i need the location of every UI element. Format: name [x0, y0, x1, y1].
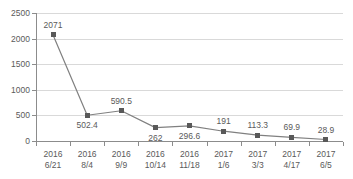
data-point-marker — [323, 137, 328, 142]
data-point-label: 296.6 — [168, 132, 212, 141]
data-point-marker — [119, 108, 124, 113]
data-point-marker — [255, 133, 260, 138]
data-point-marker — [289, 135, 294, 140]
data-point-marker — [85, 113, 90, 118]
data-point-marker — [51, 32, 56, 37]
data-point-label: 502.4 — [65, 121, 109, 130]
data-point-marker — [221, 129, 226, 134]
data-point-label: 590.5 — [99, 97, 143, 106]
data-point-marker — [187, 123, 192, 128]
data-point-label: 28.9 — [304, 126, 348, 135]
data-point-marker — [153, 125, 158, 130]
line-chart: 05001000150020002500 20166/2120168/42016… — [0, 0, 353, 179]
data-point-label: 2071 — [31, 21, 75, 30]
